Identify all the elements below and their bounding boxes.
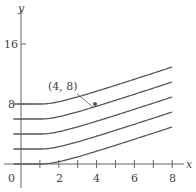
chart: y x 16 8 0 2 4 6 8 (4, 8): [0, 0, 196, 192]
y-tick-label-16: 16: [4, 38, 18, 51]
x-tick-label-6: 6: [131, 172, 138, 185]
x-axis-label: x: [186, 158, 193, 171]
x-tick-label-2: 2: [56, 172, 63, 185]
origin-label: 0: [8, 172, 15, 185]
curve-1: [13, 112, 172, 149]
x-tick-label-8: 8: [169, 172, 176, 185]
curve-2: [13, 97, 172, 134]
point-4-8: [93, 102, 97, 106]
curve-3: [13, 82, 172, 119]
y-tick-label-8: 8: [8, 98, 15, 111]
solution-curves: [13, 67, 172, 164]
x-tick-label-4: 4: [93, 172, 100, 185]
y-axis-label: y: [17, 2, 25, 15]
plot-area: y x 16 8 0 2 4 6 8 (4, 8): [0, 0, 196, 192]
curve-4: [13, 67, 172, 104]
point-annotation: (4, 8): [48, 80, 78, 93]
annotation-leader: [77, 94, 93, 107]
curve-0: [13, 127, 172, 164]
